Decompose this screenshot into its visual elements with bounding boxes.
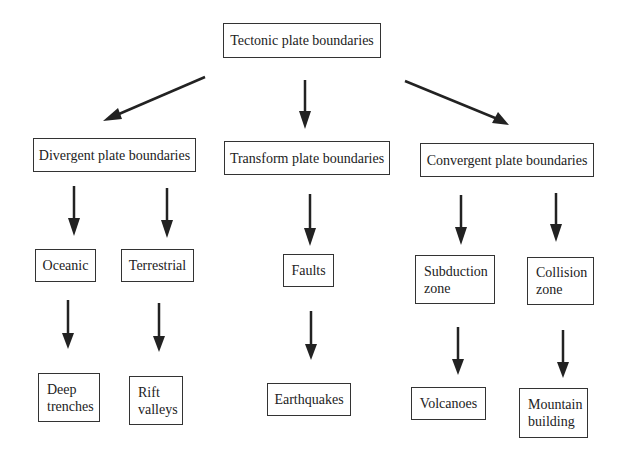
arrow-root-to-convergent	[405, 81, 500, 120]
earthquakes-label: Earthquakes	[274, 391, 343, 408]
convergent-label: Convergent plate boundaries	[427, 152, 588, 169]
transform-node: Transform plate boundaries	[224, 141, 390, 175]
faults-label: Faults	[291, 262, 325, 279]
rift-valleys-node: Rift valleys	[129, 376, 183, 425]
arrow-root-to-divergent	[112, 77, 205, 117]
volcanoes-label: Volcanoes	[420, 395, 477, 412]
terrestrial-label: Terrestrial	[129, 257, 186, 274]
oceanic-node: Oceanic	[35, 249, 96, 282]
divergent-label: Divergent plate boundaries	[39, 147, 190, 164]
root-label: Tectonic plate boundaries	[230, 32, 374, 49]
divergent-node: Divergent plate boundaries	[33, 138, 196, 172]
mountain-building-node: Mountain building	[519, 388, 588, 438]
transform-label: Transform plate boundaries	[230, 150, 384, 167]
convergent-node: Convergent plate boundaries	[420, 143, 594, 177]
deep-trenches-label: Deep trenches	[47, 381, 94, 415]
deep-trenches-node: Deep trenches	[38, 373, 100, 422]
subduction-label: Subduction zone	[424, 263, 488, 297]
collision-label: Collision zone	[536, 264, 587, 298]
terrestrial-node: Terrestrial	[121, 249, 194, 282]
earthquakes-node: Earthquakes	[267, 383, 351, 416]
rift-valleys-label: Rift valleys	[138, 384, 178, 418]
oceanic-label: Oceanic	[43, 257, 89, 274]
faults-node: Faults	[283, 254, 334, 287]
root-node: Tectonic plate boundaries	[223, 23, 381, 58]
collision-node: Collision zone	[527, 257, 594, 305]
subduction-node: Subduction zone	[415, 255, 495, 304]
volcanoes-node: Volcanoes	[411, 387, 486, 420]
mountain-building-label: Mountain building	[528, 396, 582, 430]
